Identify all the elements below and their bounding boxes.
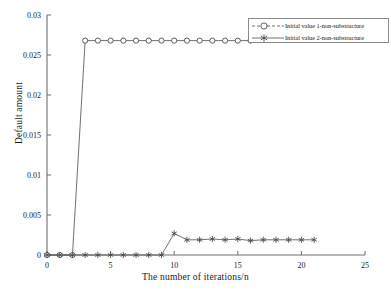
legend-label-1: Initial value 1-non-substructure [285,22,364,29]
asterisk-marker-icon [251,32,285,43]
data-point-circle [184,38,189,43]
y-tick-label: 0.03 [27,11,41,20]
data-point-circle [83,38,88,43]
data-point-circle [172,38,177,43]
data-point-circle [146,38,151,43]
y-tick-label: 0.005 [23,211,41,220]
data-point-circle [108,38,113,43]
x-axis-title-text: The number of iterations/n [142,272,249,282]
y-tick-label: 0.025 [23,51,41,60]
x-tick-label: 15 [234,261,242,270]
y-axis-title-text: Default amount [14,82,24,144]
x-tick-label: 20 [297,261,305,270]
data-point-circle [235,38,240,43]
plot-area: 00.0050.010.0150.020.0250.03 0510152025 [0,0,391,295]
data-point-circle [121,38,126,43]
figure-caption [0,288,391,295]
data-point-circle [197,38,202,43]
figure: 00.0050.010.0150.020.0250.03 0510152025 … [0,0,391,295]
series-1 [44,38,253,258]
data-point-asterisk [172,230,177,236]
series-2 [44,230,316,258]
legend-label-2: Initial value 2-non-substructure [285,34,364,41]
x-tick-label: 5 [109,261,113,270]
y-tick-label: 0.01 [27,171,41,180]
legend-entry-2: Initial value 2-non-substructure [249,31,388,43]
data-point-circle [95,38,100,43]
data-point-circle [159,38,164,43]
data-point-circle [210,38,215,43]
data-series-layer [44,38,316,258]
legend: Initial value 1-non-substructure Initial… [248,18,389,43]
x-tick-label: 0 [45,261,49,270]
y-axis-title: Default amount [14,68,24,158]
x-tick-label: 10 [170,261,178,270]
data-point-circle [222,38,227,43]
x-tick-label: 25 [361,261,369,270]
circle-marker-icon [251,20,285,31]
y-tick-label: 0 [37,251,41,260]
axis-lines [47,15,365,255]
y-tick-label: 0.015 [23,131,41,140]
legend-entry-1: Initial value 1-non-substructure [249,19,388,31]
x-axis-ticks: 0510152025 [45,251,369,270]
x-axis-title: The number of iterations/n [0,272,391,282]
data-point-circle [133,38,138,43]
y-tick-label: 0.02 [27,91,41,100]
